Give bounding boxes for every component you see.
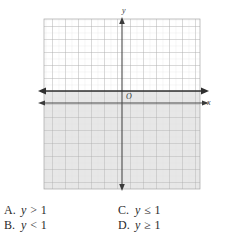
answer-choice-b-variable: y — [21, 218, 27, 232]
x-axis-label: x — [207, 99, 211, 107]
answer-choice-d-relation: ≥ — [144, 218, 151, 232]
answer-choice-c-letter: C. — [118, 203, 135, 218]
answer-choices: A. y > 1 C. y ≤ 1 B. y < 1 D. y ≥ 1 — [0, 200, 235, 252]
answer-row-1: A. y > 1 C. y ≤ 1 — [0, 203, 235, 219]
coordinate-plane-svg — [0, 0, 235, 200]
answer-choice-c-variable: y — [135, 203, 141, 217]
answer-choice-d-letter: D. — [118, 218, 135, 233]
coordinate-graph-figure: y x O — [0, 0, 235, 200]
answer-choice-b-expression: y < 1 — [21, 218, 47, 233]
answer-choice-b[interactable]: B. y < 1 — [4, 218, 47, 233]
answer-choice-d-expression: y ≥ 1 — [135, 218, 161, 233]
origin-label: O — [126, 93, 132, 101]
answer-choice-a-letter: A. — [4, 203, 21, 218]
answer-choice-b-letter: B. — [4, 218, 21, 233]
answer-choice-a[interactable]: A. y > 1 — [4, 203, 47, 218]
answer-choice-c-relation: ≤ — [144, 203, 151, 217]
y-axis-label: y — [122, 7, 126, 15]
answer-choice-b-value: 1 — [41, 218, 47, 232]
answer-choice-a-variable: y — [21, 203, 27, 217]
answer-choice-a-expression: y > 1 — [21, 203, 47, 218]
answer-choice-c-value: 1 — [155, 203, 161, 217]
answer-choice-c-expression: y ≤ 1 — [135, 203, 161, 218]
answer-row-2: B. y < 1 D. y ≥ 1 — [0, 218, 235, 234]
answer-choice-b-relation: < — [30, 218, 37, 232]
answer-choice-a-value: 1 — [41, 203, 47, 217]
answer-choice-d-value: 1 — [155, 218, 161, 232]
answer-choice-a-relation: > — [30, 203, 37, 217]
answer-choice-d[interactable]: D. y ≥ 1 — [118, 218, 161, 233]
answer-choice-d-variable: y — [135, 218, 141, 232]
answer-choice-c[interactable]: C. y ≤ 1 — [118, 203, 161, 218]
